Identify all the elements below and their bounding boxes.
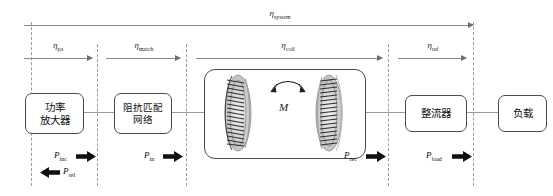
transmitter-coil-icon [218,72,260,154]
eta-system-label: ηsystem [240,8,320,20]
p-inc-arrow-icon [76,151,96,162]
block-power-amplifier-text: 功率 放大器 [40,101,70,126]
boundary-line-3 [186,44,187,186]
eta-pa-subscript: pa [57,46,63,52]
block-rectifier-text: 整流器 [421,107,451,119]
eta-pa-label: ηpa [33,40,83,52]
p-rec-arrow-icon [366,151,386,162]
p-in-arrow-icon [163,151,183,162]
mutual-inductance-label: M [279,101,288,113]
eta-match-subscript: match [139,46,154,52]
p-load-subscript: load [432,156,442,162]
eta-ref-arrow [398,58,466,59]
eta-match-arrow [106,58,180,59]
block-impedance-matching-network-line1: 阻抗匹配 [123,102,163,113]
receiver-coil-icon [308,72,350,154]
block-impedance-matching-network-line2: 网络 [123,114,163,125]
eta-ref-subscript: ref [432,46,439,52]
eta-match-label: ηmatch [115,40,173,52]
wire-coil-to-rectifier [364,112,406,113]
system-efficiency-arrow [24,25,473,26]
block-load-text: 负载 [513,107,533,119]
block-power-amplifier[interactable]: 功率 放大器 [25,93,84,134]
block-load[interactable]: 负载 [498,95,547,132]
boundary-line-5 [473,22,474,186]
p-ref-subscript: ref [69,172,76,178]
eta-coil-arrow [196,58,382,59]
p-load-arrow-icon [452,151,472,162]
block-power-amplifier-line2: 放大器 [40,114,70,126]
eta-system-subscript: system [274,14,291,20]
eta-pa-arrow [24,58,92,59]
p-in-subscript: in [150,156,155,162]
eta-ref-label: ηref [407,40,459,52]
p-inc-subscript: inc [60,156,67,162]
p-load-label: Pload [426,150,442,162]
wire-match-to-coil [169,112,205,113]
system-block-diagram: ηsystem ηpa ηmatch ηcoil ηref 功率 放大器 阻抗匹… [0,0,553,196]
eta-coil-label: ηcoil [253,40,323,52]
p-rec-subscript: rec [350,156,357,162]
block-power-amplifier-line1: 功率 [40,101,70,113]
eta-coil-subscript: coil [286,46,295,52]
p-inc-label: Pinc [54,150,67,162]
block-load-line1: 负载 [513,107,533,119]
boundary-line-4 [388,44,389,186]
block-impedance-matching-network[interactable]: 阻抗匹配 网络 [114,93,172,134]
p-rec-label: Prec [344,150,357,162]
block-rectifier-line1: 整流器 [421,107,451,119]
boundary-line-2 [97,44,98,186]
block-impedance-matching-network-text: 阻抗匹配 网络 [123,102,163,124]
block-rectifier[interactable]: 整流器 [405,95,467,132]
p-ref-label: Pref [63,166,75,178]
wire-rectifier-to-load [464,112,499,113]
p-ref-arrow-icon [40,167,60,178]
p-in-label: Pin [144,150,154,162]
mutual-inductance-arc-icon [266,76,310,98]
